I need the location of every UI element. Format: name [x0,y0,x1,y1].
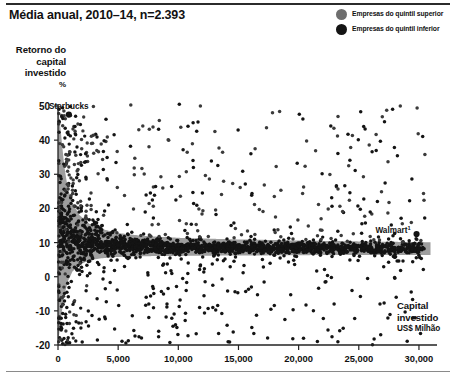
y-tick-label: -20 [36,340,51,351]
annotation-label: Starbucks [49,102,89,111]
x-tick-label: 5,000 [106,353,129,364]
x-tick-label: 10,000 [164,353,193,364]
y-tick-label: -10 [36,306,51,317]
data-points [57,102,427,346]
y-tick-label: 10 [39,238,51,249]
highlighted-point [66,111,72,117]
x-tick-label: 0 [55,353,60,364]
x-tick-label: 15,000 [224,353,253,364]
y-tick-label: 40 [39,135,51,146]
x-tick-label: 20,000 [284,353,313,364]
scatter-plot: 50403020100-10-2005,00010,00015,00020,00… [0,0,456,381]
x-tick-label: 30,000 [405,353,434,364]
y-tick-label: 30 [39,169,51,180]
y-tick-label: 0 [44,272,50,283]
highlighted-point [413,231,419,237]
chart-page: Média anual, 2010–14, n=2.393 Empresas d… [0,0,456,381]
annotation-label: Walmart1 [375,225,410,235]
y-tick-label: 20 [39,203,51,214]
x-tick-label: 25,000 [344,353,373,364]
